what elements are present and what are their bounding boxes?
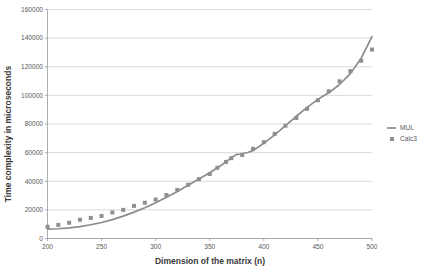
- data-point-marker: [186, 183, 190, 187]
- data-point-marker: [338, 79, 342, 83]
- data-point-marker: [46, 225, 50, 229]
- y-axis-title: Time complexity in microseconds: [3, 66, 13, 203]
- y-tick-label: 20000: [25, 206, 44, 213]
- data-point-marker: [164, 193, 168, 197]
- y-tick-label: 60000: [25, 149, 44, 156]
- y-tick-label: 0: [39, 235, 43, 242]
- x-tick-label: 300: [150, 243, 161, 250]
- data-point-marker: [240, 153, 244, 157]
- data-point-marker: [316, 98, 320, 102]
- series-line-group: [48, 37, 373, 230]
- x-axis-tick-labels: 200250300350400450500: [42, 239, 378, 250]
- gridline-group: [48, 10, 373, 239]
- data-point-marker: [327, 89, 331, 93]
- data-point-marker: [154, 198, 158, 202]
- series-line-mul: [48, 37, 373, 230]
- data-point-marker: [359, 59, 363, 63]
- legend: MULCalc3: [387, 124, 417, 142]
- x-tick-label: 250: [96, 243, 107, 250]
- data-point-marker: [215, 166, 219, 170]
- legend-label-calc3: Calc3: [400, 135, 417, 142]
- y-tick-label: 160000: [21, 6, 43, 13]
- data-point-marker: [56, 223, 60, 227]
- x-axis-title: Dimension of the matrix (n): [155, 256, 265, 266]
- x-tick-label: 450: [312, 243, 323, 250]
- data-point-marker: [229, 156, 233, 160]
- data-point-marker: [370, 48, 374, 52]
- data-point-marker: [110, 210, 114, 214]
- data-point-marker: [273, 132, 277, 136]
- y-tick-label: 100000: [21, 92, 43, 99]
- data-point-marker: [305, 107, 309, 111]
- x-tick-label: 200: [42, 243, 53, 250]
- x-tick-label: 350: [204, 243, 215, 250]
- series-marker-group: [46, 48, 375, 229]
- data-point-marker: [89, 216, 93, 220]
- x-tick-label: 500: [366, 243, 377, 250]
- y-tick-label: 120000: [21, 63, 43, 70]
- data-point-marker: [224, 160, 228, 164]
- data-point-marker: [294, 116, 298, 120]
- chart-container: 0200004000060000800001000001200001400001…: [0, 0, 429, 269]
- data-point-marker: [100, 214, 104, 218]
- data-point-marker: [175, 188, 179, 192]
- data-point-marker: [197, 177, 201, 181]
- legend-swatch-square: [390, 137, 394, 141]
- y-tick-label: 40000: [25, 178, 44, 185]
- data-point-marker: [208, 172, 212, 176]
- y-tick-label: 80000: [25, 120, 44, 127]
- y-axis-tick-labels: 0200004000060000800001000001200001400001…: [21, 6, 48, 242]
- data-point-marker: [251, 147, 255, 151]
- data-point-marker: [348, 69, 352, 73]
- y-tick-label: 140000: [21, 34, 43, 41]
- x-tick-label: 400: [258, 243, 269, 250]
- legend-label-mul: MUL: [400, 124, 414, 131]
- data-point-marker: [132, 204, 136, 208]
- chart-svg: 0200004000060000800001000001200001400001…: [0, 0, 429, 269]
- data-point-marker: [143, 201, 147, 205]
- data-point-marker: [67, 221, 71, 225]
- data-point-marker: [121, 208, 125, 212]
- data-point-marker: [262, 140, 266, 144]
- data-point-marker: [78, 218, 82, 222]
- data-point-marker: [283, 124, 287, 128]
